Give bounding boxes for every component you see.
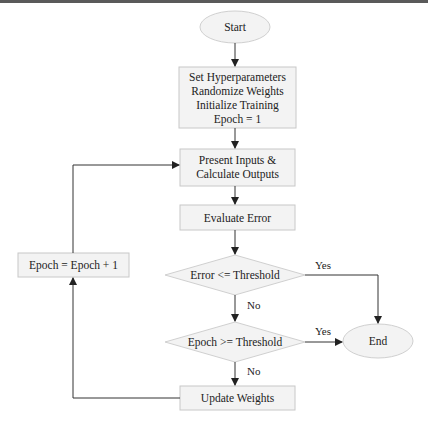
arrow-update-increment	[73, 278, 180, 398]
edge-label-epoch-yes: Yes	[315, 324, 331, 338]
arrow-increment-present	[73, 165, 179, 253]
edge-label-epoch-no: No	[247, 364, 260, 378]
error-check-label: Error <= Threshold	[165, 268, 305, 282]
present-label: Present Inputs & Calculate Outputs	[180, 153, 295, 181]
init-line-4: Epoch = 1	[179, 112, 296, 126]
update-label: Update Weights	[180, 391, 295, 405]
start-label: Start	[200, 20, 270, 34]
init-line-3: Initialize Training	[179, 98, 296, 112]
init-label: Set Hyperparameters Randomize Weights In…	[179, 70, 296, 126]
increment-label: Epoch = Epoch + 1	[18, 258, 129, 272]
present-line-1: Present Inputs &	[180, 153, 295, 167]
evaluate-label: Evaluate Error	[180, 211, 295, 225]
arrow-errorcheck-end	[305, 275, 378, 323]
edge-label-error-yes: Yes	[315, 258, 331, 272]
init-line-1: Set Hyperparameters	[179, 70, 296, 84]
present-line-2: Calculate Outputs	[180, 167, 295, 181]
init-line-2: Randomize Weights	[179, 84, 296, 98]
end-label: End	[343, 334, 413, 348]
edge-label-error-no: No	[247, 298, 260, 312]
epoch-check-label: Epoch >= Threshold	[165, 335, 305, 349]
